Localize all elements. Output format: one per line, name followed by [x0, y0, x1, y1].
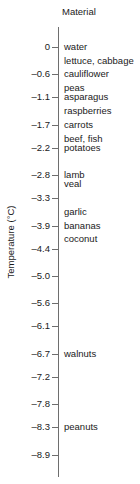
- y-axis-tick-label: 0: [4, 42, 50, 52]
- material-label: bananas: [64, 221, 100, 231]
- y-axis-tick: [52, 226, 59, 227]
- y-axis-tick: [52, 175, 59, 176]
- freezing-point-chart: Temperature (°C) Material 0–0.6–1.1–1.7–…: [0, 0, 140, 484]
- y-axis-tick: [52, 276, 59, 277]
- y-axis-tick: [52, 303, 59, 304]
- y-axis-tick-label: –4.4: [4, 244, 50, 254]
- y-axis-tick-label: –6.1: [4, 322, 50, 332]
- y-axis-tick-label: –5.6: [4, 299, 50, 309]
- y-axis-tick-label: –3.9: [4, 221, 50, 231]
- y-axis-tick-label: –3.3: [4, 193, 50, 203]
- y-axis-tick: [52, 47, 59, 48]
- y-axis-tick: [52, 455, 59, 456]
- y-axis-tick-label: –0.6: [4, 70, 50, 80]
- y-axis-spine: [58, 27, 59, 477]
- y-axis-tick-label: –7.8: [4, 399, 50, 409]
- material-label: water: [64, 42, 87, 52]
- y-axis-tick: [52, 404, 59, 405]
- y-axis-tick: [52, 377, 59, 378]
- y-axis-tick: [52, 354, 59, 355]
- y-axis-tick-label: –8.9: [4, 450, 50, 460]
- material-label: lettuce, cabbage: [64, 56, 134, 66]
- y-axis-tick-label: –1.7: [4, 120, 50, 130]
- material-label: walnuts: [64, 349, 96, 359]
- y-axis-tick-label: –1.1: [4, 93, 50, 103]
- material-label: potatoes: [64, 143, 100, 153]
- y-axis-tick-label: –2.8: [4, 170, 50, 180]
- material-label: veal: [64, 180, 81, 190]
- y-axis-tick: [52, 326, 59, 327]
- y-axis-tick: [52, 97, 59, 98]
- y-axis-tick: [52, 74, 59, 75]
- y-axis-tick: [52, 249, 59, 250]
- material-label: coconut: [64, 235, 97, 245]
- y-axis-tick: [52, 148, 59, 149]
- y-axis-tick: [52, 427, 59, 428]
- material-label: raspberries: [64, 106, 112, 116]
- material-label: asparagus: [64, 93, 108, 103]
- material-column-header: Material: [62, 7, 96, 17]
- material-label: garlic: [64, 207, 87, 217]
- material-label: cauliflower: [64, 70, 109, 80]
- y-axis-tick-label: –8.3: [4, 422, 50, 432]
- y-axis-tick-label: –7.2: [4, 372, 50, 382]
- y-axis-tick: [52, 125, 59, 126]
- material-label: peanuts: [64, 422, 98, 432]
- y-axis-tick-label: –6.7: [4, 349, 50, 359]
- y-axis-tick-label: –2.2: [4, 143, 50, 153]
- y-axis-tick-label: –5.0: [4, 271, 50, 281]
- y-axis-tick: [52, 198, 59, 199]
- material-label: carrots: [64, 120, 93, 130]
